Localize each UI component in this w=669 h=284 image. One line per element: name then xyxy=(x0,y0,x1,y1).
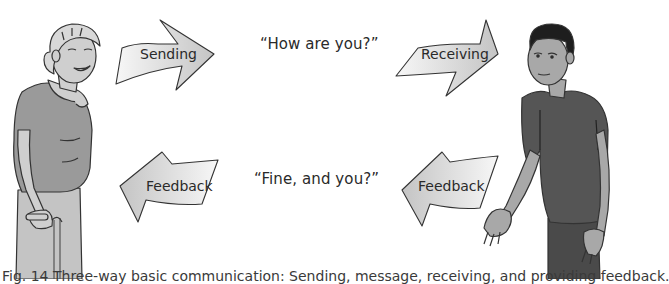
feedback-right-label: Feedback xyxy=(418,178,485,194)
receiving-label: Receiving xyxy=(421,46,489,62)
message-fine-and-you: “Fine, and you?” xyxy=(254,170,379,188)
figure-caption: Fig. 14 Three-way basic communication: S… xyxy=(2,268,669,284)
sending-label: Sending xyxy=(140,46,197,62)
message-how-are-you: “How are you?” xyxy=(260,35,379,53)
woman-figure xyxy=(14,24,100,279)
man-figure xyxy=(484,24,609,279)
feedback-left-label: Feedback xyxy=(146,178,213,194)
